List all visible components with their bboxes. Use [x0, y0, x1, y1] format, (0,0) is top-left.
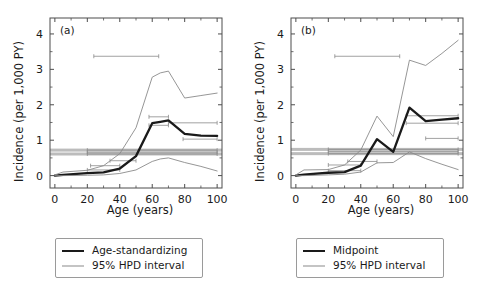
y-tick-label: 2 — [36, 99, 43, 112]
panel-a-plot: 02040608010001234(a) — [0, 0, 240, 230]
legend-line-main-icon — [303, 246, 325, 256]
panel-a-ylabel: Incidence (per 1,000 PY) — [12, 41, 26, 182]
plot-content — [291, 40, 463, 175]
legend-row-main: Midpoint — [303, 243, 435, 258]
legend-label-main: Midpoint — [333, 244, 378, 257]
y-tick-label: 1 — [36, 134, 43, 147]
figure-root: 02040608010001234(a) Incidence (per 1,00… — [0, 0, 481, 286]
panel-b-ylabel: Incidence (per 1,000 PY) — [253, 41, 267, 182]
panel-tag: (b) — [301, 24, 316, 36]
panel-b-xlabel: Age (years) — [261, 203, 481, 217]
panel-b-legend: Midpoint 95% HPD interval — [296, 238, 444, 278]
y-tick-label: 3 — [277, 63, 284, 76]
legend-row-main: Age-standardizing — [62, 243, 194, 258]
y-tick-label: 2 — [277, 99, 284, 112]
legend-label-hpd: 95% HPD interval — [333, 259, 425, 272]
panel-b-plot: 02040608010001234(b) — [241, 0, 481, 230]
legend-label-hpd: 95% HPD interval — [92, 259, 184, 272]
y-tick-label: 4 — [36, 28, 43, 41]
legend-line-main-icon — [62, 246, 84, 256]
series-line — [296, 152, 458, 176]
y-tick-label: 3 — [36, 63, 43, 76]
legend-line-hpd-icon — [62, 261, 84, 271]
y-tick-label: 1 — [277, 134, 284, 147]
panel-a-xlabel: Age (years) — [20, 203, 260, 217]
plot-content — [50, 54, 222, 175]
legend-label-main: Age-standardizing — [92, 244, 187, 257]
legend-row-hpd: 95% HPD interval — [303, 258, 435, 273]
series-line — [296, 108, 458, 176]
y-tick-label: 4 — [277, 28, 284, 41]
legend-line-hpd-icon — [303, 261, 325, 271]
legend-row-hpd: 95% HPD interval — [62, 258, 194, 273]
panel-tag: (a) — [60, 24, 75, 36]
y-tick-label: 0 — [36, 170, 43, 183]
y-tick-label: 0 — [277, 170, 284, 183]
panel-a-legend: Age-standardizing 95% HPD interval — [55, 238, 203, 278]
series-line — [55, 120, 217, 175]
panel-a: 02040608010001234(a) Incidence (per 1,00… — [0, 0, 240, 286]
